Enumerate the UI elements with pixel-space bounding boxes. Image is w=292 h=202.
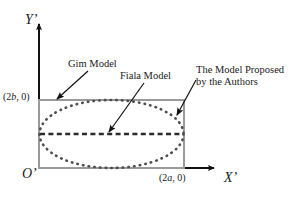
x-axis-label: X’	[224, 170, 237, 186]
origin-label: O’	[22, 166, 37, 182]
coord-2a-close: , 0)	[172, 172, 185, 183]
figure-container: Y’ X’ O’ (2b, 0) (2a, 0) Gim Model Fiala…	[0, 0, 292, 202]
diagram-canvas	[0, 0, 292, 202]
coord-2b-close: , 0)	[16, 91, 29, 102]
authors-model-label: The Model Proposed by the Authors	[196, 64, 288, 89]
gim-callout-arrow	[57, 71, 88, 99]
coordinate-label-2b: (2b, 0)	[3, 91, 30, 102]
authors-model-label-line1: The Model Proposed	[196, 64, 288, 76]
coordinate-label-2a: (2a, 0)	[159, 172, 186, 183]
authors-model-label-line2: by the Authors	[196, 76, 288, 88]
y-axis-label: Y’	[25, 12, 37, 28]
gim-model-label: Gim Model	[68, 58, 117, 70]
fiala-callout-arrow	[109, 83, 144, 132]
fiala-model-label: Fiala Model	[120, 70, 171, 82]
authors-callout-arrow	[177, 80, 196, 115]
